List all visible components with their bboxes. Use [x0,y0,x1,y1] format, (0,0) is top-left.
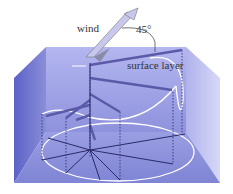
ekman-spiral-diagram [0,0,233,194]
wind-label: wind [77,22,99,34]
angle-label: 45° [136,23,151,35]
surface-layer-label: surface layer [127,59,184,71]
